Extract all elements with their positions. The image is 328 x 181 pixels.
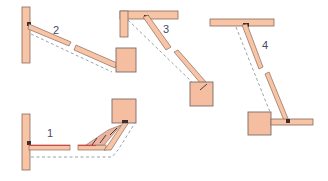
arm-segment	[174, 50, 206, 85]
wall-post	[22, 7, 30, 63]
horizontal-bar	[271, 119, 313, 125]
position-1: 1	[22, 99, 136, 170]
path-dashed-line	[31, 34, 112, 72]
block	[190, 82, 213, 106]
frame-post	[120, 11, 128, 37]
arm-segment	[28, 24, 71, 46]
hinge-icon	[286, 119, 290, 123]
hinge-icon	[122, 120, 128, 123]
position-4: 4	[210, 19, 313, 135]
block	[116, 48, 136, 72]
path-dashed-line	[128, 20, 192, 82]
hinge-icon	[27, 141, 31, 145]
position-2: 2	[22, 7, 136, 72]
block	[112, 99, 136, 123]
position-label: 3	[163, 23, 169, 35]
arm-segment	[74, 45, 117, 68]
position-label: 4	[262, 39, 268, 51]
position-label: 1	[47, 127, 53, 139]
position-label: 2	[53, 24, 59, 36]
block	[248, 112, 271, 135]
mechanism-diagram: 2 3 4 1	[0, 0, 328, 181]
arm-segment	[242, 24, 263, 69]
